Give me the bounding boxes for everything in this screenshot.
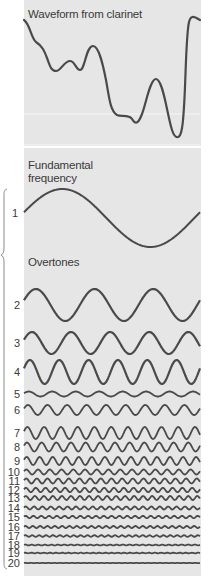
overtone-wave-15	[24, 516, 200, 518]
overtone-wave-5	[24, 392, 200, 397]
overtone-wave-19	[24, 553, 200, 554]
harmonic-number-2: 2	[6, 300, 20, 311]
overtone-wave-11	[24, 479, 200, 484]
overtone-wave-9	[24, 457, 200, 465]
harmonic-number-8: 8	[6, 442, 20, 453]
harmonic-number-3: 3	[6, 338, 20, 349]
overtone-wave-18	[24, 545, 200, 546]
clarinet-waveform-curve	[24, 17, 200, 137]
waveform-diagram	[0, 0, 215, 587]
harmonic-number-5: 5	[6, 389, 20, 400]
overtone-wave-10	[24, 470, 200, 475]
harmonic-number-4: 4	[6, 367, 20, 378]
overtone-wave-14	[24, 507, 200, 510]
overtone-wave-7	[24, 427, 200, 439]
overtone-wave-12	[24, 488, 200, 492]
harmonic-number-7: 7	[6, 428, 20, 439]
overtone-wave-8	[24, 443, 200, 452]
overtone-wave-4	[24, 360, 200, 384]
harmonic-number-6: 6	[6, 405, 20, 416]
overtone-wave-6	[24, 405, 200, 415]
overtone-wave-13	[24, 496, 200, 500]
overtone-wave-16	[24, 526, 200, 528]
overtone-wave-2	[24, 289, 200, 321]
overtone-wave-3	[24, 332, 200, 354]
fundamental-wave	[24, 189, 200, 247]
harmonic-number-20: 20	[6, 558, 20, 569]
overtone-wave-17	[24, 535, 200, 537]
overtone-waves	[24, 289, 200, 563]
